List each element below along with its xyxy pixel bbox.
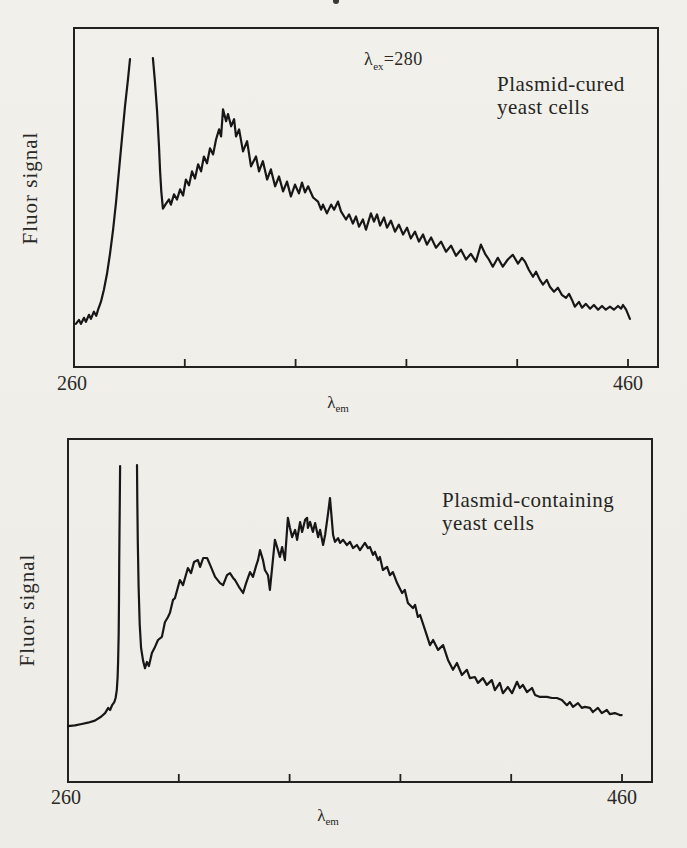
top-x-tick-label-min: 260	[57, 372, 87, 395]
xlabel-subscript: em	[325, 815, 338, 827]
bottom-chart-title: Plasmid-containing yeast cells	[442, 489, 614, 535]
title-line: yeast cells	[442, 512, 614, 535]
charts-canvas	[0, 0, 687, 848]
top-y-axis-label: Fluor signal	[18, 132, 43, 245]
annotation-value: =280	[384, 49, 423, 69]
bottom-x-axis-label: λem	[317, 806, 339, 827]
top-x-tick-label-max: 460	[613, 372, 643, 395]
title-line: Plasmid-cured	[497, 73, 625, 96]
annotation-subscript: ex	[373, 60, 383, 72]
bottom-y-axis-label: Fluor signal	[15, 554, 40, 667]
spectrum-trace	[68, 466, 120, 726]
scanned-figure-page: Fluor signal λex=280 Plasmid-cured yeast…	[0, 0, 687, 848]
top-chart-title: Plasmid-cured yeast cells	[497, 73, 625, 119]
top-x-axis-label: λem	[327, 393, 349, 414]
spectrum-trace	[76, 59, 130, 324]
title-line: yeast cells	[497, 96, 625, 119]
bottom-x-tick-label-min: 260	[51, 786, 81, 809]
excitation-annotation: λex=280	[364, 49, 423, 72]
lambda-symbol: λ	[364, 49, 373, 69]
title-line: Plasmid-containing	[442, 489, 614, 512]
xlabel-subscript: em	[335, 402, 348, 414]
bottom-x-tick-label-max: 460	[607, 786, 637, 809]
